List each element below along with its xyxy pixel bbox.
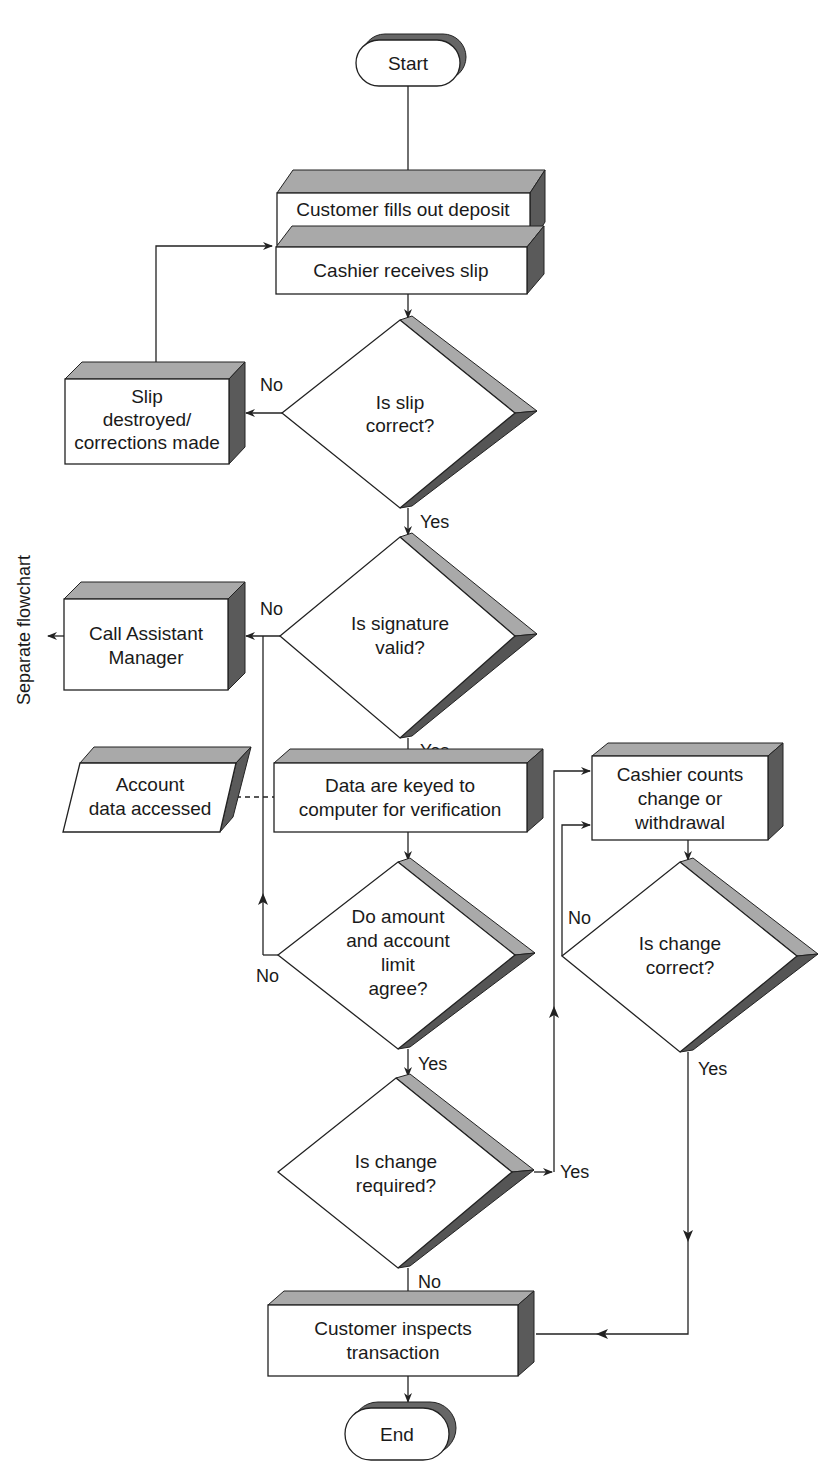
call-manager-line-1: Call Assistant bbox=[89, 623, 204, 644]
node-end: End bbox=[345, 1402, 456, 1460]
edge-change-correct-yes bbox=[536, 1052, 688, 1334]
edge-loop-to-fill bbox=[156, 246, 272, 362]
top-face bbox=[64, 582, 245, 599]
edge-label-change-req-yes: Yes bbox=[560, 1162, 589, 1182]
data-keyed-line-2: computer for verification bbox=[299, 799, 502, 820]
node-change-correct: Is change correct? bbox=[562, 858, 818, 1052]
top-face bbox=[80, 747, 251, 763]
cashier-counts-line-1: Cashier counts bbox=[617, 764, 744, 785]
node-customer-inspects: Customer inspects transaction bbox=[268, 1291, 534, 1376]
side-face bbox=[229, 362, 245, 464]
slip-destroyed-line-2: destroyed/ bbox=[103, 409, 192, 430]
diamond-face bbox=[282, 320, 515, 508]
side-face bbox=[228, 582, 245, 690]
slip-destroyed-line-1: Slip bbox=[131, 386, 163, 407]
edge-label-amount-yes: Yes bbox=[418, 1054, 447, 1074]
separate-flowchart-note: Separate flowchart bbox=[14, 555, 34, 705]
edge-label-amount-no: No bbox=[256, 966, 279, 986]
front-face bbox=[64, 599, 228, 690]
cashier-counts-line-3: withdrawal bbox=[634, 812, 725, 833]
slip-correct-line-2: correct? bbox=[366, 415, 435, 436]
edge-label-slip-no: No bbox=[260, 375, 283, 395]
edge-label-change-correct-yes: Yes bbox=[698, 1059, 727, 1079]
account-data-line-2: data accessed bbox=[89, 798, 212, 819]
top-face bbox=[592, 743, 783, 756]
top-face bbox=[274, 749, 543, 763]
node-slip-destroyed: Slip destroyed/ corrections made bbox=[65, 362, 245, 464]
node-signature-valid: Is signature valid? bbox=[280, 533, 537, 738]
edge-label-sig-no: No bbox=[260, 599, 283, 619]
cashier-counts-line-2: change or bbox=[638, 788, 723, 809]
call-manager-line-2: Manager bbox=[109, 647, 185, 668]
front-face bbox=[274, 763, 527, 832]
signature-valid-line-2: valid? bbox=[375, 637, 425, 658]
change-required-line-1: Is change bbox=[355, 1151, 437, 1172]
node-slip-correct: Is slip correct? bbox=[282, 316, 537, 508]
node-call-manager: Call Assistant Manager bbox=[64, 582, 245, 690]
diamond-face bbox=[278, 1078, 512, 1268]
slip-correct-line-1: Is slip bbox=[376, 392, 425, 413]
node-receive-slip: Cashier receives slip bbox=[276, 226, 544, 294]
node-change-required: Is change required? bbox=[278, 1074, 534, 1268]
node-data-keyed: Data are keyed to computer for verificat… bbox=[274, 749, 543, 832]
receive-slip-label: Cashier receives slip bbox=[313, 260, 488, 281]
amount-agree-line-3: limit bbox=[381, 954, 415, 975]
edge-label-change-req-no: No bbox=[418, 1272, 441, 1292]
front-face bbox=[268, 1305, 518, 1376]
amount-agree-line-2: and account bbox=[346, 930, 450, 951]
flowchart-canvas: Start Customer fills out deposit or with… bbox=[0, 0, 833, 1482]
edge-label-change-correct-no: No bbox=[568, 908, 591, 928]
top-face bbox=[65, 362, 245, 379]
side-face bbox=[768, 743, 783, 840]
node-cashier-counts: Cashier counts change or withdrawal bbox=[592, 743, 783, 840]
change-correct-line-1: Is change bbox=[639, 933, 721, 954]
signature-valid-line-1: Is signature bbox=[351, 613, 449, 634]
edge-label-slip-yes: Yes bbox=[420, 512, 449, 532]
customer-inspects-line-1: Customer inspects bbox=[314, 1318, 471, 1339]
end-label: End bbox=[380, 1424, 414, 1445]
change-correct-line-2: correct? bbox=[646, 957, 715, 978]
top-face bbox=[276, 226, 544, 247]
node-account-data: Account data accessed bbox=[63, 747, 251, 832]
amount-agree-line-1: Do amount bbox=[352, 906, 446, 927]
data-keyed-line-1: Data are keyed to bbox=[325, 775, 475, 796]
node-amount-agree: Do amount and account limit agree? bbox=[278, 858, 535, 1049]
fill-slip-line-1: Customer fills out deposit bbox=[296, 199, 510, 220]
top-face bbox=[277, 170, 545, 193]
side-face bbox=[518, 1291, 534, 1376]
node-start: Start bbox=[356, 34, 466, 86]
change-required-line-2: required? bbox=[356, 1175, 436, 1196]
side-face bbox=[527, 749, 543, 832]
amount-agree-line-4: agree? bbox=[368, 978, 427, 999]
customer-inspects-line-2: transaction bbox=[347, 1342, 440, 1363]
top-face bbox=[268, 1291, 534, 1305]
start-label: Start bbox=[388, 53, 429, 74]
account-data-line-1: Account bbox=[116, 774, 185, 795]
slip-destroyed-line-3: corrections made bbox=[74, 432, 220, 453]
